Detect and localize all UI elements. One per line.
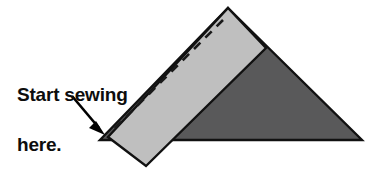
annotation-line-1: Start sewing: [17, 82, 147, 107]
annotation-caption: Start sewing here.: [17, 57, 147, 182]
annotation-line-2: here.: [17, 132, 147, 157]
sewing-diagram-figure: Start sewing here.: [0, 0, 374, 184]
